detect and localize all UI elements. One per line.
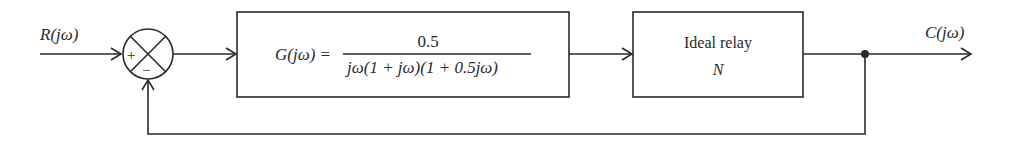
plant-to-relay-arrow — [569, 48, 632, 60]
plant-block: G(jω) = 0.5 jω(1 + jω)(1 + 0.5jω) — [237, 12, 569, 97]
plant-lhs: G(jω) = — [275, 45, 331, 64]
relay-gain-symbol: N — [712, 61, 725, 78]
minus-sign: − — [142, 62, 150, 78]
summing-junction: + − — [123, 29, 173, 79]
relay-title: Ideal relay — [684, 34, 752, 52]
plus-sign: + — [127, 47, 135, 63]
output-arrow — [803, 48, 971, 60]
output-label: C(jω) — [925, 23, 965, 42]
relay-block: Ideal relay N — [633, 12, 803, 97]
plant-numerator: 0.5 — [417, 32, 438, 51]
error-arrow — [173, 48, 236, 60]
input-label: R(jω) — [39, 25, 79, 44]
feedback-path — [142, 54, 865, 134]
plant-denominator: jω(1 + jω)(1 + 0.5jω) — [345, 58, 498, 77]
input-arrow — [40, 48, 121, 60]
block-diagram: R(jω) + − G(jω) = 0.5 jω(1 + jω)(1 + 0.5… — [0, 0, 1012, 146]
